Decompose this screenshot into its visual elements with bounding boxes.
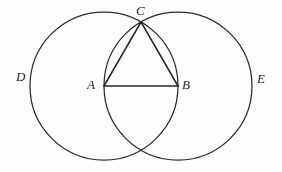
figure-canvas — [0, 0, 282, 172]
segment-ac — [104, 22, 141, 86]
geometry-figure: C A B D E — [0, 0, 282, 172]
label-circle-d: D — [16, 70, 25, 83]
label-point-a: A — [87, 78, 95, 91]
label-point-c: C — [136, 4, 145, 17]
label-point-b: B — [182, 78, 190, 91]
label-circle-e: E — [257, 72, 265, 85]
segment-bc — [141, 22, 178, 86]
